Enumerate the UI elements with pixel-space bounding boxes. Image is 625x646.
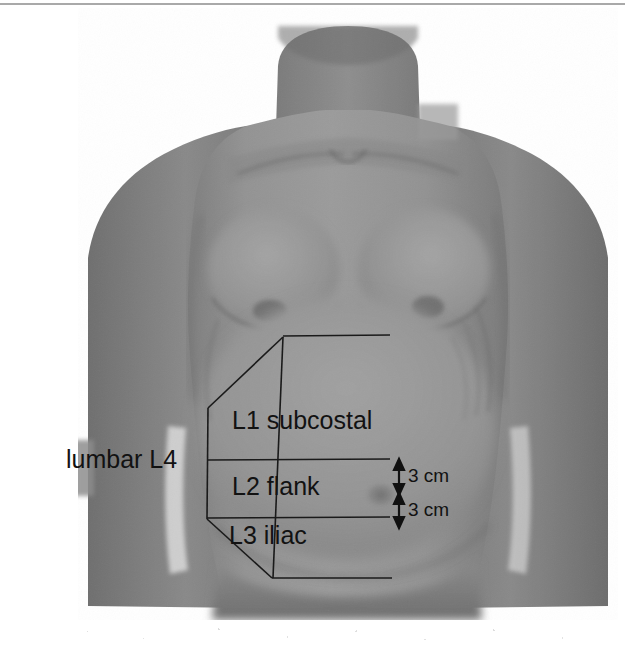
label-zone-l1-subcostal: L1 subcostal [232,408,372,433]
label-measure-lower-3cm: 3 cm [408,500,449,519]
label-zone-l3-iliac: L3 iliac [229,523,307,548]
figure-canvas: lumbar L4 L1 subcostal L2 flank L3 iliac… [0,0,625,646]
l2-l3-divider-line [207,517,390,518]
arrow-upper [394,459,404,495]
label-zone-l2-flank: L2 flank [232,474,320,499]
label-measure-upper-3cm: 3 cm [408,466,449,485]
zone-overlay [0,0,625,646]
zone-top-line [283,335,390,336]
l1-l2-divider-line [208,459,390,460]
zone-left-line [207,408,208,519]
costal-margin-line [208,337,283,408]
label-lumbar-l4: lumbar L4 [66,447,177,472]
dimension-arrows [394,459,404,528]
arrow-lower [394,493,404,528]
scan-speckle-band [0,622,625,646]
